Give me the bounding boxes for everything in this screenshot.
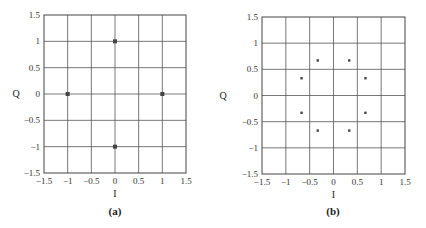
y-axis-label: Q (12, 88, 20, 99)
x-tick-label: −1 (63, 176, 73, 186)
x-tick-label: −0.5 (302, 177, 319, 187)
y-tick-label: −0.5 (242, 117, 259, 127)
x-tick-label: 0 (331, 177, 336, 187)
constellation-plot-a: −1.5−1−0.500.511.51.510.50−0.5−1−1.5IQ (0, 0, 213, 228)
panel-caption-a: (a) (95, 205, 135, 217)
constellation-point (113, 39, 117, 43)
x-tick-label: 0.5 (133, 176, 145, 186)
constellation-point (317, 129, 319, 131)
y-tick-label: −1.5 (24, 168, 41, 178)
x-tick-label: 1 (160, 176, 165, 186)
y-tick-label: 1 (36, 36, 41, 46)
y-tick-label: −1 (30, 142, 40, 152)
y-tick-label: −1.5 (242, 169, 259, 179)
x-tick-label: 1.5 (180, 176, 192, 186)
constellation-panel-b: −1.5−1−0.500.511.51.510.50−0.5−1−1.5IQ (… (213, 0, 426, 228)
grid-lines (44, 15, 186, 173)
x-tick-label: −0.5 (83, 176, 100, 186)
y-tick-label: 0.5 (247, 64, 259, 74)
y-tick-label: 1 (254, 38, 259, 48)
y-tick-label: 0 (254, 91, 259, 101)
constellation-point (317, 59, 319, 61)
x-axis-label: I (113, 188, 116, 199)
y-tick-label: 0 (36, 89, 41, 99)
constellation-point (300, 112, 302, 114)
x-tick-label: 0 (113, 176, 118, 186)
constellation-point (300, 77, 302, 79)
y-tick-label: 1.5 (29, 10, 41, 20)
constellation-plot-b: −1.5−1−0.500.511.51.510.50−0.5−1−1.5IQ (213, 0, 426, 228)
constellation-point (348, 59, 350, 61)
grid-lines (262, 17, 405, 174)
constellation-point (160, 92, 164, 96)
constellation-panel-a: −1.5−1−0.500.511.51.510.50−0.5−1−1.5IQ (… (0, 0, 213, 228)
x-tick-label: 0.5 (352, 177, 364, 187)
y-tick-label: −1 (248, 143, 258, 153)
y-tick-label: −0.5 (24, 115, 41, 125)
x-tick-label: −1 (281, 177, 291, 187)
x-axis-label: I (332, 189, 335, 200)
y-axis-label: Q (219, 90, 227, 101)
y-tick-label: 0.5 (29, 63, 41, 73)
x-tick-label: 1.5 (399, 177, 411, 187)
panel-caption-b: (b) (313, 205, 353, 217)
constellation-point (364, 77, 366, 79)
constellation-point (364, 112, 366, 114)
constellation-point (113, 145, 117, 149)
constellation-point (66, 92, 70, 96)
y-tick-label: 1.5 (247, 12, 259, 22)
x-tick-label: 1 (379, 177, 384, 187)
constellation-point (348, 129, 350, 131)
